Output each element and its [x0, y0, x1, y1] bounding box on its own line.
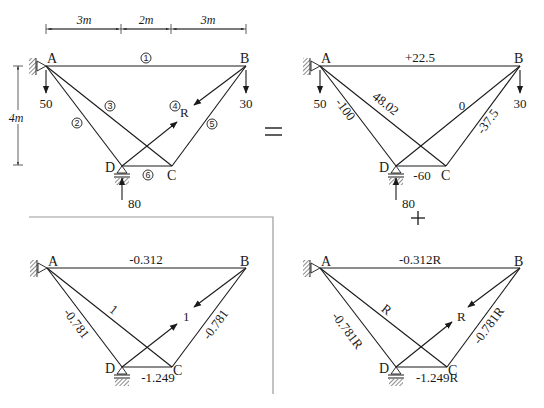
redundant-label: R	[180, 105, 189, 120]
svg-text:5: 5	[209, 119, 214, 129]
member-2-AD	[46, 66, 122, 166]
dimension-side: 4m	[4, 66, 28, 165]
unit-arrow-B	[194, 268, 246, 307]
truss-superposition-figure: 3m 2m 3m 4m R 1 2	[0, 0, 544, 408]
member-AD	[320, 66, 396, 166]
node-B: B	[514, 254, 523, 269]
member-AD	[47, 268, 122, 367]
node-B: B	[514, 51, 523, 66]
diagram-unit: 1 -0.312 -0.781 1 -0.781 -1.249 A B D C	[30, 252, 249, 386]
node-A: A	[47, 51, 58, 66]
node-A: A	[321, 254, 332, 269]
dim-label-2: 2m	[139, 13, 154, 27]
svg-text:3: 3	[107, 101, 112, 111]
node-C: C	[167, 168, 176, 183]
dim-label-height: 4m	[9, 111, 24, 125]
member-AC	[320, 66, 446, 166]
node-C: C	[441, 168, 450, 183]
reaction-D-value: 80	[402, 196, 415, 211]
svg-text:1: 1	[143, 53, 148, 63]
node-D: D	[379, 160, 389, 175]
node-A: A	[321, 51, 332, 66]
node-B: B	[240, 51, 249, 66]
load-A-value: 50	[314, 96, 327, 111]
redundant-arrow-D	[396, 322, 452, 367]
node-D: D	[105, 160, 115, 175]
force-AB: -0.312	[129, 252, 163, 267]
unit-force-label: 1	[183, 309, 190, 324]
member-number-5: 5	[207, 119, 217, 129]
pin-support-A	[303, 58, 320, 75]
reaction-D-value: 80	[128, 196, 141, 211]
force-DC: -1.249	[141, 370, 175, 385]
load-A-value: 50	[40, 96, 53, 111]
roller-support-D	[114, 367, 130, 386]
member-number-1: 1	[141, 53, 151, 63]
pin-support-A	[303, 260, 320, 277]
redundant-arrow-D	[122, 122, 177, 166]
pin-support-A	[30, 260, 47, 277]
node-C: C	[448, 363, 457, 378]
redundant-arrow-B	[194, 66, 246, 105]
dim-label-3: 3m	[200, 13, 216, 27]
member-3-AC	[46, 66, 172, 166]
force-AB: +22.5	[405, 50, 435, 65]
roller-support-D	[388, 367, 404, 386]
diagram-original: 3m 2m 3m 4m R 1 2	[4, 13, 253, 211]
member-DB	[396, 66, 520, 166]
unit-arrow-D	[122, 324, 177, 367]
node-B: B	[240, 254, 249, 269]
node-D: D	[105, 361, 115, 376]
member-number-3: 3	[105, 101, 115, 111]
force-AD: -0.781	[60, 305, 92, 341]
force-AC: 48.02	[370, 89, 402, 119]
node-C: C	[173, 363, 182, 378]
member-number-6: 6	[143, 170, 153, 180]
force-DB: 0	[459, 98, 466, 113]
force-AC: 1	[107, 302, 121, 318]
redundant-arrow-B	[468, 268, 520, 307]
dimension-top: 3m 2m 3m	[46, 13, 246, 34]
load-B-value: 30	[240, 96, 253, 111]
force-AB: -0.312R	[399, 252, 442, 267]
member-number-2: 2	[72, 118, 82, 128]
load-B-value: 30	[514, 96, 527, 111]
force-AD: -100	[332, 95, 358, 123]
svg-text:4: 4	[172, 101, 177, 111]
redundant-label: R	[457, 309, 466, 324]
plus-sign	[411, 211, 425, 225]
force-AD: -0.781R	[329, 309, 367, 352]
force-DC: -60	[413, 168, 430, 183]
diagram-scaled: R -0.312R -0.781R R -0.781R -1.249R A B …	[303, 252, 523, 386]
dim-label-1: 3m	[76, 13, 92, 27]
force-BC: -37.5	[473, 106, 501, 137]
pin-support-A	[29, 58, 46, 75]
node-A: A	[48, 254, 59, 269]
svg-text:6: 6	[145, 170, 150, 180]
member-number-4: 4	[170, 101, 180, 111]
equals-sign	[265, 128, 282, 135]
svg-text:2: 2	[74, 118, 79, 128]
diagram-primary: 50 30 80 +22.5 -100 48.02 0 -37.5 -60 A …	[303, 50, 527, 211]
node-D: D	[379, 361, 389, 376]
